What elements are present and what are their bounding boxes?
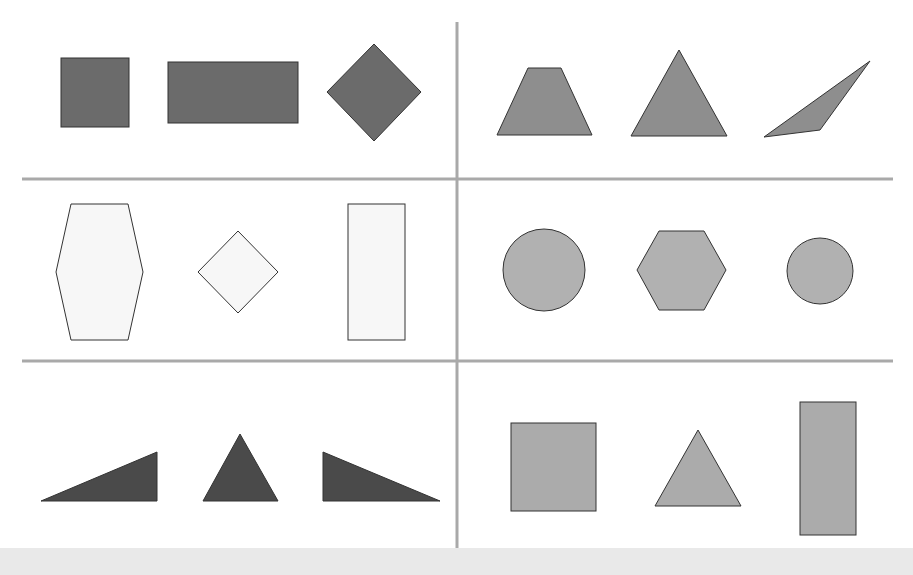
bottom-strip: [0, 548, 913, 575]
diamond-shape: [198, 231, 278, 313]
cell-r2c2: [503, 229, 853, 311]
cell-r3c1: [41, 434, 440, 501]
triangle-shape: [655, 430, 741, 506]
diamond-shape: [327, 44, 421, 141]
triangle-shape: [631, 50, 727, 136]
rectangle-shape: [168, 62, 298, 123]
cell-r3c2: [511, 402, 856, 535]
shapes-diagram: [0, 0, 913, 575]
hexagon-shape: [56, 204, 143, 340]
square-shape: [61, 58, 129, 127]
circle-shape: [503, 229, 585, 311]
cell-r2c1: [56, 204, 405, 340]
right-triangle-shape: [323, 452, 440, 501]
obtuse-triangle-shape: [764, 61, 870, 137]
trapezoid-shape: [497, 68, 592, 135]
square-shape: [511, 423, 596, 511]
rectangle-shape: [348, 204, 405, 340]
hexagon-shape: [637, 231, 726, 310]
circle-shape: [787, 238, 853, 304]
rectangle-shape: [800, 402, 856, 535]
right-triangle-shape: [41, 452, 157, 501]
cell-r1c1: [61, 44, 421, 141]
cell-r1c2: [497, 50, 870, 137]
triangle-shape: [203, 434, 278, 501]
